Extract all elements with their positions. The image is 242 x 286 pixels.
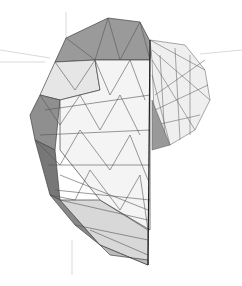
mesh-svg: [0, 0, 242, 286]
inner-tube: [150, 40, 210, 150]
outer-shell: [30, 18, 152, 265]
mesh-render: [0, 0, 242, 286]
